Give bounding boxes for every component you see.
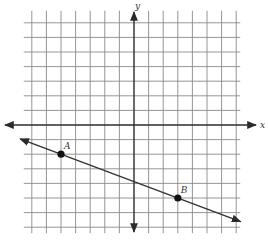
grid bbox=[24, 11, 240, 233]
graph-line-group bbox=[20, 139, 240, 222]
point-label-a: A bbox=[63, 141, 71, 151]
point-b bbox=[174, 194, 181, 201]
point-label-b: B bbox=[180, 185, 188, 195]
x-axis-label: x bbox=[260, 120, 265, 130]
graph-line bbox=[20, 139, 240, 222]
coordinate-plane-figure: AB x y bbox=[0, 0, 268, 243]
coordinate-plane: AB x y bbox=[0, 0, 268, 243]
points: AB bbox=[57, 141, 187, 201]
y-axis-label: y bbox=[134, 1, 141, 11]
axes bbox=[5, 12, 256, 232]
point-a bbox=[57, 151, 64, 158]
